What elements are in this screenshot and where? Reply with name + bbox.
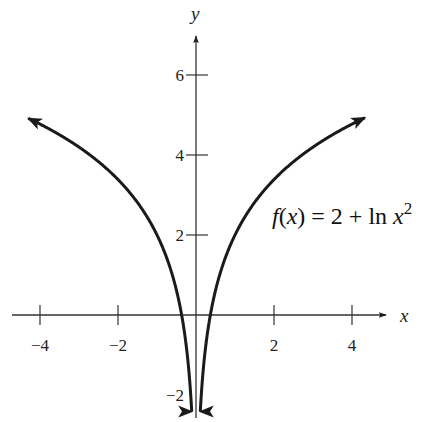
formula-annotation: f(x) = 2 + ln x2 [272, 199, 412, 229]
curve-right-branch [200, 118, 365, 412]
y-tick-label: 6 [176, 66, 185, 85]
x-tick-label: 2 [270, 336, 279, 355]
function-graph: −4−224 642−2 x y f(x) = 2 + ln x2 [0, 0, 437, 422]
x-axis-label: x [399, 305, 409, 326]
y-tick-label: −2 [166, 386, 184, 405]
x-ticks: −4−224 [31, 305, 357, 355]
y-axis-label: y [189, 3, 200, 24]
x-tick-label: −2 [109, 336, 127, 355]
y-tick-label: 2 [176, 226, 185, 245]
x-tick-label: −4 [31, 336, 50, 355]
curve-left-branch [28, 118, 191, 411]
x-tick-label: 4 [348, 336, 357, 355]
y-tick-label: 4 [176, 146, 185, 165]
